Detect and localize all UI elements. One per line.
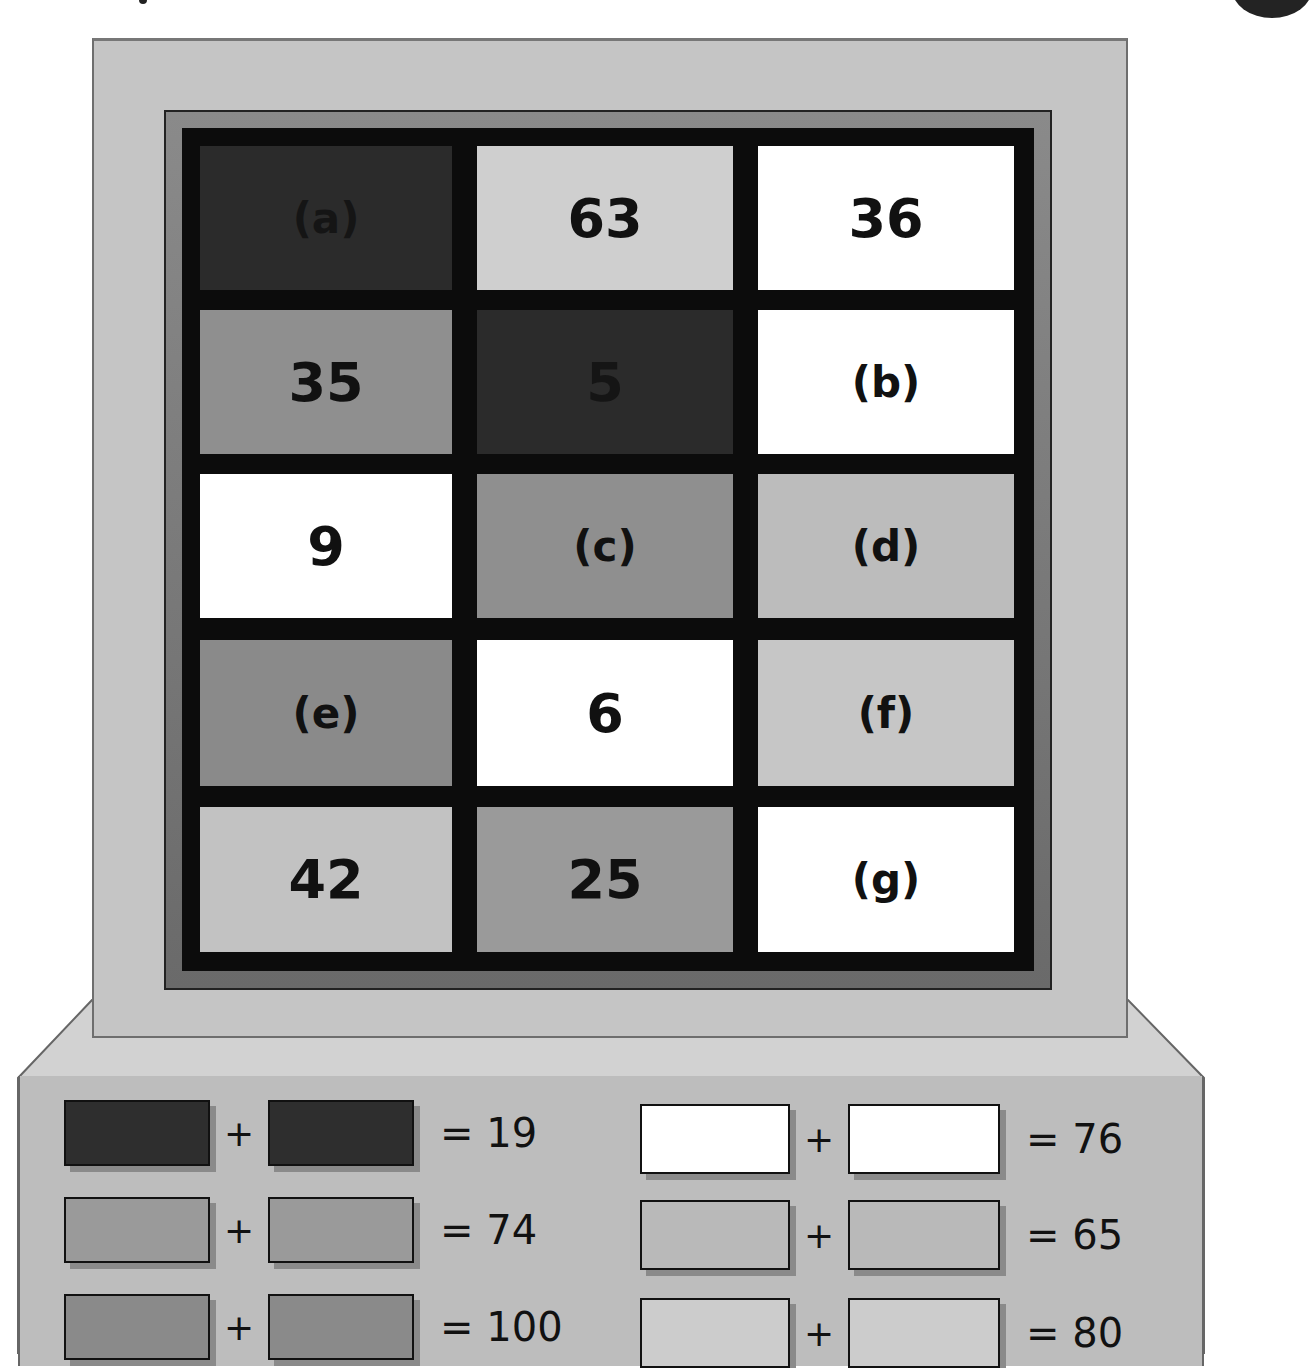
equation-result: = 74 xyxy=(440,1207,537,1253)
equation-result: = 65 xyxy=(1026,1212,1123,1258)
grid-cell: 42 xyxy=(200,807,452,952)
grid-cell-f[interactable]: (f) xyxy=(758,640,1014,786)
answer-box[interactable] xyxy=(848,1104,1000,1174)
equation-result: = 19 xyxy=(440,1110,537,1156)
answer-box[interactable] xyxy=(848,1200,1000,1270)
plus-sign: + xyxy=(790,1215,848,1256)
answer-box[interactable] xyxy=(268,1100,414,1166)
plus-sign: + xyxy=(210,1210,268,1251)
equation-row: + = 65 xyxy=(640,1200,1123,1270)
equation-row: + = 19 xyxy=(64,1100,537,1166)
answer-box[interactable] xyxy=(64,1100,210,1166)
answer-box[interactable] xyxy=(640,1200,790,1270)
equation-result: = 80 xyxy=(1026,1310,1123,1356)
plus-sign: + xyxy=(790,1119,848,1160)
plus-sign: + xyxy=(790,1313,848,1354)
plus-sign: + xyxy=(210,1307,268,1348)
answer-box[interactable] xyxy=(640,1104,790,1174)
equation-row: + = 100 xyxy=(64,1294,563,1360)
plus-sign: + xyxy=(210,1113,268,1154)
equation-row: + = 80 xyxy=(640,1298,1123,1368)
grid-cell-d[interactable]: (d) xyxy=(758,474,1014,618)
grid-cell: 36 xyxy=(758,146,1014,290)
grid-cell-a[interactable]: (a) xyxy=(200,146,452,290)
grid-cell-g[interactable]: (g) xyxy=(758,807,1014,952)
grid-cell-c[interactable]: (c) xyxy=(477,474,733,618)
answer-box[interactable] xyxy=(268,1294,414,1360)
grid-cell: 9 xyxy=(200,474,452,618)
grid-cell-b[interactable]: (b) xyxy=(758,310,1014,454)
number-grid: (a) 63 36 35 5 (b) 9 (c) (d) (e) 6 (f) 4… xyxy=(182,128,1034,971)
answer-box[interactable] xyxy=(64,1294,210,1360)
answer-box[interactable] xyxy=(640,1298,790,1368)
equation-result: = 76 xyxy=(1026,1116,1123,1162)
grid-cell: 25 xyxy=(477,807,733,952)
equation-result: = 100 xyxy=(440,1304,563,1350)
equation-row: + = 74 xyxy=(64,1197,537,1263)
grid-cell: 35 xyxy=(200,310,452,454)
grid-cell: 63 xyxy=(477,146,733,290)
answer-box[interactable] xyxy=(268,1197,414,1263)
grid-cell: 6 xyxy=(477,640,733,786)
answer-box[interactable] xyxy=(64,1197,210,1263)
grid-cell-e[interactable]: (e) xyxy=(200,640,452,786)
grid-cell: 5 xyxy=(477,310,733,454)
answer-box[interactable] xyxy=(848,1298,1000,1368)
equation-row: + = 76 xyxy=(640,1104,1123,1174)
